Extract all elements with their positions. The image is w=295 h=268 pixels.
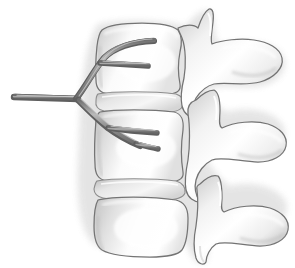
spine-anatomy-svg	[0, 0, 295, 268]
vertebra-3-body	[94, 197, 188, 257]
vertebra-1-body	[96, 23, 182, 96]
anatomy-illustration	[0, 0, 295, 268]
